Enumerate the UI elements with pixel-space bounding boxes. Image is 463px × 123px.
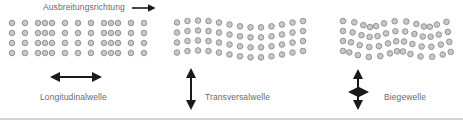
particle bbox=[248, 45, 254, 51]
particle bbox=[185, 38, 191, 44]
particle bbox=[75, 50, 81, 56]
particle bbox=[412, 31, 418, 37]
particle bbox=[381, 21, 387, 27]
particle bbox=[375, 33, 381, 39]
particle bbox=[237, 43, 243, 49]
particle bbox=[400, 49, 406, 55]
particle bbox=[269, 23, 275, 29]
particle bbox=[216, 20, 222, 26]
particle bbox=[75, 20, 81, 26]
particle bbox=[376, 43, 382, 49]
particle bbox=[340, 48, 346, 54]
particle bbox=[206, 38, 212, 44]
particle bbox=[434, 22, 440, 28]
particle bbox=[394, 48, 400, 54]
particle bbox=[141, 40, 147, 46]
particle bbox=[448, 49, 454, 55]
particle bbox=[128, 50, 134, 56]
particle bbox=[438, 42, 444, 48]
particle bbox=[35, 20, 41, 26]
wave-illustration bbox=[0, 0, 463, 123]
particle bbox=[108, 30, 114, 36]
particle bbox=[174, 40, 180, 46]
particle bbox=[88, 30, 94, 36]
particle bbox=[108, 20, 114, 26]
particle bbox=[429, 44, 435, 50]
particle bbox=[62, 20, 68, 26]
particle bbox=[49, 30, 55, 36]
particle bbox=[195, 38, 201, 44]
particle bbox=[227, 42, 233, 48]
particle bbox=[350, 30, 356, 36]
particle bbox=[216, 30, 222, 36]
particle bbox=[300, 48, 306, 54]
particle bbox=[440, 52, 446, 58]
particle bbox=[436, 32, 442, 38]
particle bbox=[378, 53, 384, 59]
particle bbox=[248, 25, 254, 31]
particle bbox=[206, 28, 212, 34]
particle bbox=[35, 30, 41, 36]
particle bbox=[359, 32, 365, 38]
particle bbox=[141, 30, 147, 36]
particle bbox=[115, 40, 121, 46]
particle bbox=[9, 40, 15, 46]
particle bbox=[115, 30, 121, 36]
particle bbox=[427, 24, 433, 30]
particle bbox=[227, 22, 233, 28]
particle bbox=[300, 18, 306, 24]
particle bbox=[206, 48, 212, 54]
particle bbox=[101, 20, 107, 26]
particle bbox=[62, 30, 68, 36]
particle bbox=[348, 40, 354, 46]
particle bbox=[195, 28, 201, 34]
particle bbox=[216, 50, 222, 56]
particle bbox=[290, 40, 296, 46]
particle bbox=[42, 40, 48, 46]
particle bbox=[410, 41, 416, 47]
particle bbox=[22, 30, 28, 36]
particle bbox=[290, 20, 296, 26]
particle bbox=[62, 50, 68, 56]
particle bbox=[403, 19, 409, 25]
particle bbox=[185, 18, 191, 24]
particle bbox=[290, 50, 296, 56]
particle bbox=[351, 20, 357, 26]
particle bbox=[141, 50, 147, 56]
particle bbox=[444, 19, 450, 25]
particle bbox=[258, 25, 264, 31]
particle bbox=[206, 18, 212, 24]
particle bbox=[141, 20, 147, 26]
particle bbox=[227, 52, 233, 58]
particle bbox=[49, 50, 55, 56]
particle bbox=[108, 40, 114, 46]
particle bbox=[367, 34, 373, 40]
particle bbox=[269, 33, 275, 39]
particle bbox=[279, 52, 285, 58]
particle bbox=[269, 53, 275, 59]
particle bbox=[258, 55, 264, 61]
particle bbox=[174, 50, 180, 56]
particle bbox=[258, 45, 264, 51]
particle bbox=[248, 35, 254, 41]
particle bbox=[445, 29, 451, 35]
particle bbox=[357, 42, 363, 48]
particle bbox=[22, 40, 28, 46]
particle bbox=[248, 55, 254, 61]
particle bbox=[42, 20, 48, 26]
particle bbox=[115, 50, 121, 56]
particle bbox=[9, 50, 15, 56]
particle bbox=[49, 20, 55, 26]
particle bbox=[419, 44, 425, 50]
particle bbox=[22, 20, 28, 26]
particle bbox=[429, 54, 435, 60]
transversal-particles bbox=[174, 18, 306, 60]
particle bbox=[340, 38, 346, 44]
particle bbox=[340, 18, 346, 24]
particle bbox=[392, 18, 398, 24]
longitudinal-particles bbox=[9, 20, 147, 56]
particle bbox=[420, 34, 426, 40]
particle bbox=[414, 21, 420, 27]
particle bbox=[300, 28, 306, 34]
particle bbox=[174, 30, 180, 36]
